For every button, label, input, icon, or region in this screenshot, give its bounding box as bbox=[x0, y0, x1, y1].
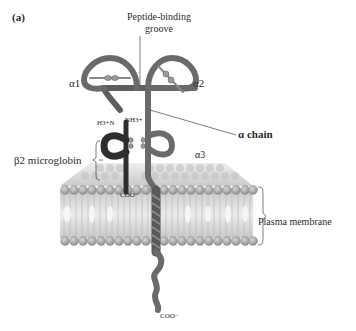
groove-label-line2: groove bbox=[127, 23, 191, 35]
panel-label: (a) bbox=[12, 12, 25, 23]
n-terminus-alpha-label: NH3+ bbox=[125, 117, 143, 124]
c-terminus-beta2-label: COO− bbox=[120, 192, 139, 199]
alpha2-label: α2 bbox=[193, 78, 204, 89]
n-terminus-beta2-label: H3+N bbox=[97, 120, 115, 127]
c-terminus-alpha-label: COO− bbox=[160, 313, 179, 320]
alpha1-label: α1 bbox=[69, 78, 80, 89]
plasma-membrane-label: Plasma membrane bbox=[258, 217, 332, 227]
peptide-binding-groove-label: Peptide-binding groove bbox=[127, 11, 191, 35]
groove-label-line1: Peptide-binding bbox=[127, 11, 191, 23]
alpha-chain-label: α chain bbox=[238, 129, 273, 140]
beta2-microglobin-label: β2 microglobin bbox=[14, 155, 82, 166]
alpha3-label: α3 bbox=[195, 150, 205, 160]
